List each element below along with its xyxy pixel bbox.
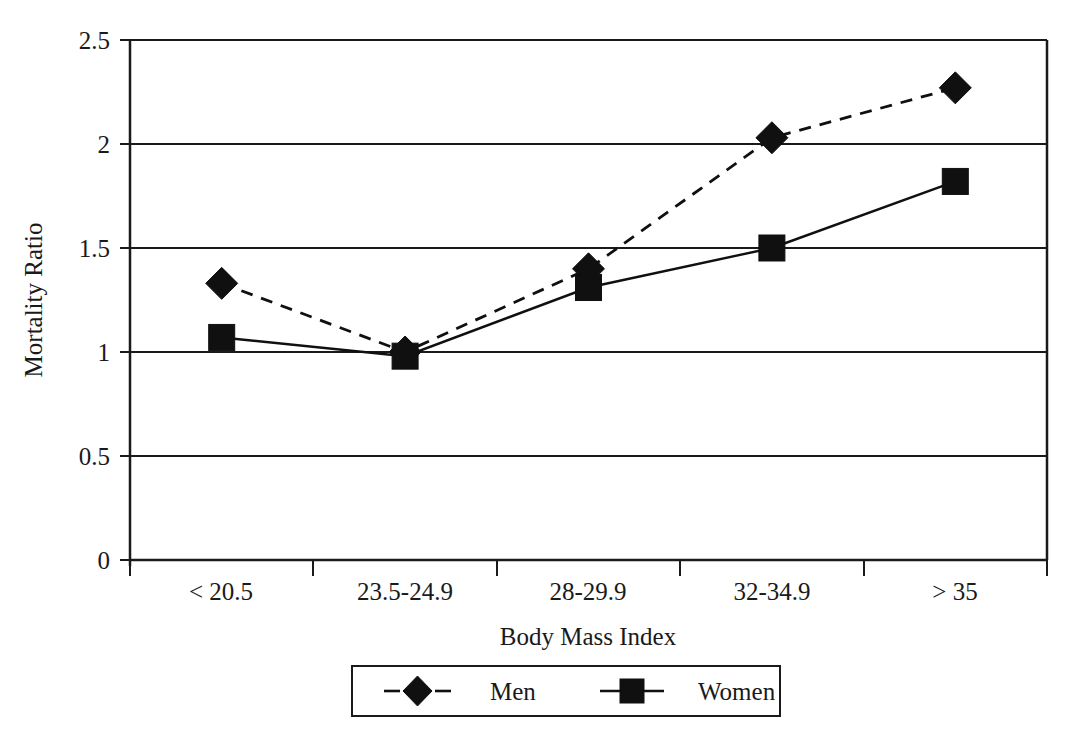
mortality-ratio-line-chart: 2.5 2 1.5 1 0.5 0 < 20.5 23.5-24.9 28-29… bbox=[0, 0, 1075, 751]
y-axis-title: Mortality Ratio bbox=[20, 223, 47, 378]
square-marker bbox=[620, 679, 644, 703]
x-tick-label-4: > 35 bbox=[932, 578, 977, 605]
x-tick-label-2: 28-29.9 bbox=[549, 578, 626, 605]
y-tick-label-1-0: 1 bbox=[98, 339, 111, 366]
y-tick-label-2-0: 2 bbox=[98, 131, 111, 158]
square-marker bbox=[942, 168, 968, 194]
y-tick-label-1-5: 1.5 bbox=[79, 235, 110, 262]
y-tick-labels: 2.5 2 1.5 1 0.5 0 bbox=[79, 27, 110, 574]
x-axis-title: Body Mass Index bbox=[500, 623, 677, 650]
y-tick-label-2-5: 2.5 bbox=[79, 27, 110, 54]
x-tick-label-3: 32-34.9 bbox=[733, 578, 810, 605]
legend-label-women: Women bbox=[698, 678, 776, 705]
square-marker bbox=[759, 235, 785, 261]
y-tick-marks bbox=[120, 40, 130, 560]
x-tick-labels: < 20.5 23.5-24.9 28-29.9 32-34.9 > 35 bbox=[189, 578, 978, 605]
x-tick-label-0: < 20.5 bbox=[189, 578, 253, 605]
square-marker bbox=[209, 324, 235, 350]
x-tick-label-1: 23.5-24.9 bbox=[357, 578, 453, 605]
y-tick-label-0-0: 0 bbox=[98, 547, 111, 574]
y-tick-label-0-5: 0.5 bbox=[79, 443, 110, 470]
chart-figure: 2.5 2 1.5 1 0.5 0 < 20.5 23.5-24.9 28-29… bbox=[0, 0, 1075, 751]
legend-label-men: Men bbox=[490, 678, 536, 705]
chart-legend: Men Women bbox=[352, 666, 780, 716]
x-tick-marks bbox=[130, 560, 1047, 576]
